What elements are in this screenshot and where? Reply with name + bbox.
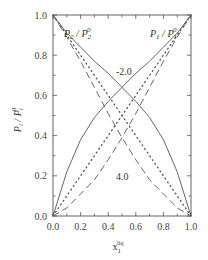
left-curve-label: P2 / P20 [63, 26, 92, 41]
solid-curve-label: -2.0 [116, 66, 132, 77]
x-tick-label: 0.4 [102, 221, 115, 232]
right-curve-label: P1 / P10 [149, 26, 177, 41]
curves [53, 15, 191, 216]
y-tick-label: 0.4 [35, 130, 48, 141]
y-tick-label: 0.8 [35, 50, 48, 61]
x-axis-label: x1liq [113, 240, 124, 255]
x-tick-label: 0.2 [74, 221, 87, 232]
x-tick-label: 0.8 [157, 221, 170, 232]
y-tick-label: 0.6 [35, 90, 48, 101]
x-tick-label: 0.0 [47, 221, 60, 232]
y-tick-labels: 0.00.20.40.60.81.0 [35, 10, 48, 222]
x-tick-label: 1.0 [185, 221, 198, 232]
x-tick-label: 0.6 [130, 221, 143, 232]
x-tick-labels: 0.00.20.40.60.81.0 [47, 221, 198, 232]
y-tick-label: 1.0 [35, 10, 48, 21]
y-tick-label: 0.0 [35, 211, 48, 222]
chart: 0.00.20.40.60.81.0 0.00.20.40.60.81.0 P2… [0, 0, 208, 260]
dashed-curve-label: 4.0 [116, 171, 129, 182]
y-tick-label: 0.2 [35, 170, 48, 181]
y-axis-label: Pi / Pi0 [10, 107, 25, 133]
